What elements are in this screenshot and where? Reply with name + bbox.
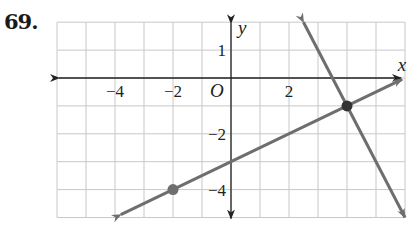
x-tick-label: −4 xyxy=(106,82,125,101)
y-tick-label: −2 xyxy=(208,125,226,144)
plotted-point xyxy=(168,184,179,195)
x-tick-label: −2 xyxy=(164,82,182,101)
plotted-point xyxy=(342,100,353,111)
x-axis-label: x xyxy=(397,54,407,75)
y-axis-label: y xyxy=(236,17,247,38)
y-tick-label: −4 xyxy=(208,181,227,200)
coordinate-graph: xyO−4−221−2−4 xyxy=(0,0,410,236)
origin-label: O xyxy=(210,80,224,101)
x-tick-label: 2 xyxy=(285,82,294,101)
y-tick-label: 1 xyxy=(218,41,227,60)
